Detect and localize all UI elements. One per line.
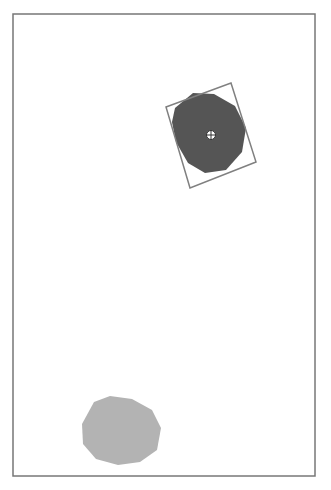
image-canvas <box>0 0 331 490</box>
scene-svg <box>0 0 331 490</box>
image-frame <box>13 14 315 476</box>
light-blob-shape[interactable] <box>82 396 161 465</box>
crosshair-icon[interactable] <box>207 131 216 140</box>
